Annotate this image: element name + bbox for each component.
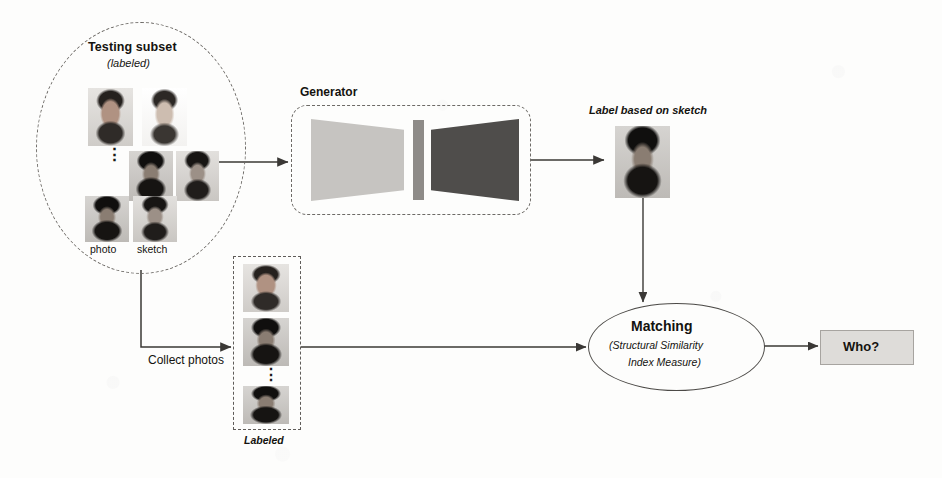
testing-sketch-2 xyxy=(176,151,219,201)
testing-photo-2 xyxy=(129,151,173,201)
matching-subtitle-line2: Index Measure) xyxy=(628,356,701,368)
bottleneck-bar-icon xyxy=(413,120,424,200)
result-label: Who? xyxy=(843,339,879,354)
testing-sketch-3 xyxy=(133,196,177,242)
collect-photos-label: Collect photos xyxy=(148,353,224,367)
testing-subset-title: Testing subset xyxy=(88,40,177,54)
generator-title: Generator xyxy=(300,85,357,99)
testing-photo-3 xyxy=(85,196,129,242)
testing-photo-1 xyxy=(88,88,133,146)
labeled-face-3 xyxy=(243,386,289,424)
decoder-trapezoid-icon xyxy=(431,119,519,201)
labeled-face-1 xyxy=(243,264,289,312)
testing-subset-ellipsis: ⋮ xyxy=(106,152,111,158)
labeled-face-2 xyxy=(243,318,289,366)
generated-output-caption: Label based on sketch xyxy=(589,104,707,116)
encoder-trapezoid-icon xyxy=(311,119,404,201)
testing-subset-subtitle: (labeled) xyxy=(107,57,150,69)
diagram-canvas: Testing subset (labeled) ⋮ photo sketch … xyxy=(0,0,942,478)
sketch-column-label: sketch xyxy=(137,243,167,255)
testing-sketch-1 xyxy=(142,88,187,146)
labeled-column-ellipsis: ⋮ xyxy=(263,372,268,378)
matching-subtitle-line1: (Structural Similarity xyxy=(609,339,703,351)
matching-title: Matching xyxy=(631,318,692,334)
generated-face-image xyxy=(615,126,670,198)
photo-column-label: photo xyxy=(90,243,116,255)
labeled-column-caption: Labeled xyxy=(244,434,284,446)
wire-subset-to-labeled xyxy=(141,270,231,347)
